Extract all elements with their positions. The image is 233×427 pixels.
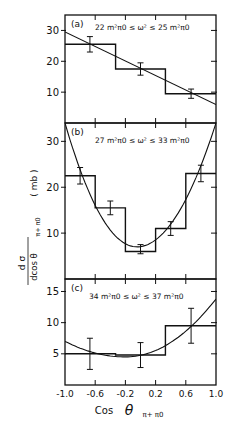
y-axis-label-unit: ( mb ): [29, 169, 39, 196]
y-axis-label-subscript: π+ π0: [34, 217, 42, 236]
x-tick-label: 0.2: [148, 389, 162, 399]
panel-label: (b): [71, 127, 84, 137]
x-tick-label: -1.0: [56, 389, 74, 399]
x-tick-label: -0.2: [117, 389, 135, 399]
y-tick-label: 30: [46, 25, 59, 36]
y-tick-label: 10: [46, 87, 59, 98]
y-axis-label-numerator: d σ: [17, 256, 27, 271]
panel-c: 51015(c)34 m²π0 ≤ ω² ≤ 37 m²π0-1.0-0.6-0…: [46, 279, 223, 399]
x-axis-label-subscript: π+ π0: [143, 411, 164, 419]
panel-title: 27 m²π0 ≤ ω² ≤ 33 m²π0: [95, 136, 190, 145]
y-tick-label: 20: [46, 56, 59, 67]
histogram: [65, 173, 216, 251]
x-tick-label: 0.6: [179, 389, 194, 399]
x-axis-label-main: Cos: [95, 405, 113, 416]
y-tick-label: 5: [53, 348, 59, 359]
y-axis-label-denominator: dcos θ: [29, 253, 39, 281]
y-tick-label: 10: [46, 317, 59, 328]
x-axis-label: Cos θ π+ π0: [95, 402, 164, 419]
chart-figure: 102030(a)22 m²π0 ≤ ω² ≤ 25 m²π0102030(b)…: [0, 0, 233, 427]
panel-title: 34 m²π0 ≤ ω² ≤ 37 m²π0: [89, 292, 184, 301]
panel-a: 102030(a)22 m²π0 ≤ ω² ≤ 25 m²π0: [46, 15, 217, 123]
y-tick-label: 30: [46, 136, 59, 147]
chart-panels: 102030(a)22 m²π0 ≤ ω² ≤ 25 m²π0102030(b)…: [46, 15, 223, 399]
panel-label: (c): [71, 283, 83, 293]
x-tick-label: -0.6: [86, 389, 104, 399]
panel-label: (a): [71, 19, 84, 29]
panel-title: 22 m²π0 ≤ ω² ≤ 25 m²π0: [95, 23, 190, 32]
y-tick-label: 10: [46, 228, 59, 239]
y-tick-label: 15: [46, 286, 59, 297]
x-axis-label-theta: θ: [125, 402, 134, 418]
panel-frame: [65, 123, 216, 279]
y-axis-label: d σ dcos θ π+ π0 ( mb ): [17, 169, 42, 285]
panel-b: 102030(b)27 m²π0 ≤ ω² ≤ 33 m²π0: [46, 123, 217, 279]
x-tick-label: 1.0: [209, 389, 224, 399]
y-tick-label: 20: [46, 182, 59, 193]
